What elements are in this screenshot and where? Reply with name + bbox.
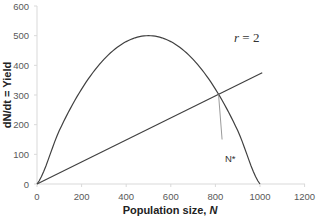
y-axis-ticks: 0100200300400500600 — [13, 1, 37, 190]
x-axis-title: Population size, N — [123, 204, 219, 216]
x-tick-label: 200 — [74, 191, 90, 202]
yield-chart: 0100200300400500600 02004006008001000120… — [0, 0, 316, 217]
x-axis-ticks: 020040060080010001200 — [34, 184, 315, 202]
y-tick-label: 200 — [13, 119, 29, 130]
x-tick-label: 1200 — [294, 191, 315, 202]
n-star-label: N* — [225, 153, 236, 164]
y-tick-label: 0 — [24, 179, 29, 190]
y-tick-label: 100 — [13, 149, 29, 160]
x-tick-label: 1000 — [249, 191, 270, 202]
y-axis-title: dN/dt = Yield — [1, 62, 13, 128]
x-tick-label: 600 — [163, 191, 179, 202]
x-tick-label: 0 — [34, 191, 39, 202]
y-tick-label: 500 — [13, 30, 29, 41]
x-tick-label: 800 — [207, 191, 223, 202]
y-tick-label: 600 — [13, 1, 29, 12]
y-tick-label: 300 — [13, 90, 29, 101]
x-tick-label: 400 — [118, 191, 134, 202]
y-tick-label: 400 — [13, 60, 29, 71]
n-star-drop-line — [219, 94, 223, 139]
harvest-line — [37, 73, 262, 184]
r-annotation: r = 2 — [234, 30, 259, 45]
